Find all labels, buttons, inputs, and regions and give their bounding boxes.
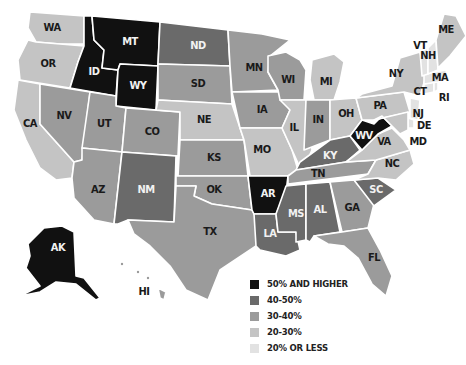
state-label-nd: ND: [190, 39, 206, 52]
legend-label: 50% AND HIGHER: [267, 279, 348, 289]
state-label-ga: GA: [345, 201, 361, 214]
legend-label: 30-40%: [267, 311, 302, 321]
state-label-ak: AK: [51, 241, 66, 254]
state-label-la: LA: [264, 227, 278, 240]
legend-item: 20% OR LESS: [250, 340, 348, 356]
state-label-ok: OK: [206, 183, 222, 196]
state-label-nh: NH: [420, 49, 436, 62]
legend-item: 30-40%: [250, 308, 348, 324]
state-label-il: IL: [290, 121, 300, 134]
state-label-mn: MN: [245, 61, 262, 74]
legend-item: 50% AND HIGHER: [250, 276, 348, 292]
legend-label: 20% OR LESS: [267, 343, 328, 353]
state-label-mt: MT: [122, 35, 138, 48]
state-label-wi: WI: [281, 73, 295, 86]
legend-swatch: [250, 296, 259, 305]
legend-swatch: [250, 344, 259, 353]
legend-swatch: [250, 312, 259, 321]
state-label-ca: CA: [23, 117, 38, 130]
state-label-sd: SD: [191, 77, 206, 90]
state-label-in: IN: [313, 113, 324, 126]
legend-item: 40-50%: [250, 292, 348, 308]
state-label-ia: IA: [257, 103, 268, 116]
state-label-ks: KS: [207, 151, 221, 164]
state-label-pa: PA: [374, 99, 388, 112]
state-label-ms: MS: [288, 207, 304, 220]
state-label-wv: WV: [355, 129, 373, 142]
legend-swatch: [250, 280, 259, 289]
state-label-ri: RI: [439, 91, 449, 104]
us-choropleth-map: WAORCAIDMTWYNVUTCOAZNMNDSDNEKSOKTXMNIAMO…: [0, 0, 466, 365]
state-label-va: VA: [377, 135, 391, 148]
legend: 50% AND HIGHER 40-50% 30-40% 20-30% 20% …: [250, 276, 348, 356]
state-label-mo: MO: [253, 143, 270, 156]
state-label-fl: FL: [368, 251, 381, 264]
state-label-tx: TX: [203, 225, 217, 238]
legend-item: 20-30%: [250, 324, 348, 340]
state-ak: [20, 226, 100, 300]
state-label-co: CO: [145, 125, 160, 138]
state-label-md: MD: [409, 135, 426, 148]
state-label-ct: CT: [413, 85, 427, 98]
state-label-ne: NE: [197, 113, 212, 126]
state-label-ma: MA: [432, 71, 449, 84]
state-label-mi: MI: [320, 75, 333, 88]
state-label-or: OR: [40, 57, 56, 70]
state-label-az: AZ: [91, 183, 105, 196]
state-label-nm: NM: [137, 183, 154, 196]
state-label-ky: KY: [323, 149, 338, 162]
state-label-ny: NY: [389, 67, 405, 80]
state-label-al: AL: [314, 203, 328, 216]
state-label-me: ME: [438, 23, 454, 36]
legend-swatch: [250, 328, 259, 337]
state-label-tn: TN: [311, 167, 325, 180]
legend-label: 20-30%: [267, 327, 302, 337]
state-label-ut: UT: [97, 117, 112, 130]
state-label-nc: NC: [385, 157, 400, 170]
state-label-oh: OH: [338, 107, 354, 120]
state-label-id: ID: [89, 65, 100, 78]
state-label-wy: WY: [129, 79, 147, 92]
state-label-sc: SC: [369, 183, 383, 196]
state-label-hi: HI: [139, 285, 150, 298]
legend-label: 40-50%: [267, 295, 302, 305]
state-label-wa: WA: [43, 21, 61, 34]
state-label-nv: NV: [57, 109, 73, 122]
state-label-de: DE: [417, 119, 432, 132]
state-label-ar: AR: [261, 187, 276, 200]
